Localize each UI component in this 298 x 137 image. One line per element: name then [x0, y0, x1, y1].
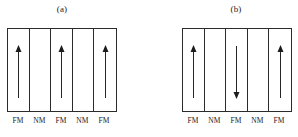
panel-a-label-5: FM: [93, 114, 115, 128]
panel-b-layer-2-nm: [205, 29, 226, 111]
panel-b-label-5: FM: [268, 114, 290, 128]
magnetization-arrow-up-icon: [276, 46, 285, 98]
panel-b-layer-3-fm: [226, 29, 248, 111]
arrow-head: [277, 45, 283, 52]
panel-b: (b): [174, 0, 298, 137]
panel-a-layer-3-fm: [51, 29, 73, 111]
panel-a-layer-1-fm: [8, 29, 30, 111]
panel-b-layer-4-nm: [248, 29, 269, 111]
panel-b-layer-1-fm: [183, 29, 205, 111]
panel-b-label-1: FM: [182, 114, 204, 128]
panel-a: (a): [0, 0, 124, 137]
arrow-shaft: [18, 46, 19, 98]
panel-b-layer-stack: [182, 28, 292, 112]
panel-a-layer-5-fm: [94, 29, 116, 111]
panel-a-label-2: NM: [29, 114, 50, 128]
magnetization-arrow-down-icon: [232, 46, 241, 98]
multilayer-schematic-figure: (a): [0, 0, 298, 137]
arrow-head: [59, 45, 65, 52]
arrow-head: [191, 45, 197, 52]
panel-a-layer-stack: [7, 28, 117, 112]
panel-b-label-3: FM: [225, 114, 247, 128]
arrow-head: [16, 45, 22, 52]
panel-a-label-1: FM: [7, 114, 29, 128]
panel-a-layer-2-nm: [30, 29, 51, 111]
panel-b-layer-labels: FM NM FM NM FM: [182, 114, 292, 128]
arrow-head: [234, 92, 240, 99]
arrow-shaft: [280, 46, 281, 98]
arrow-shaft: [193, 46, 194, 98]
magnetization-arrow-up-icon: [57, 46, 66, 98]
panel-a-layer-4-nm: [73, 29, 94, 111]
arrow-shaft: [236, 46, 237, 98]
panel-b-layer-5-fm: [269, 29, 291, 111]
arrow-shaft: [61, 46, 62, 98]
panel-b-label-2: NM: [204, 114, 225, 128]
panel-b-caption: (b): [174, 3, 298, 15]
panel-a-label-4: NM: [72, 114, 93, 128]
panel-b-label-4: NM: [247, 114, 268, 128]
panel-a-label-3: FM: [50, 114, 72, 128]
magnetization-arrow-up-icon: [14, 46, 23, 98]
panel-a-caption: (a): [0, 3, 124, 15]
magnetization-arrow-up-icon: [189, 46, 198, 98]
arrow-shaft: [105, 46, 106, 98]
magnetization-arrow-up-icon: [101, 46, 110, 98]
arrow-head: [102, 45, 108, 52]
panel-a-layer-labels: FM NM FM NM FM: [7, 114, 117, 128]
